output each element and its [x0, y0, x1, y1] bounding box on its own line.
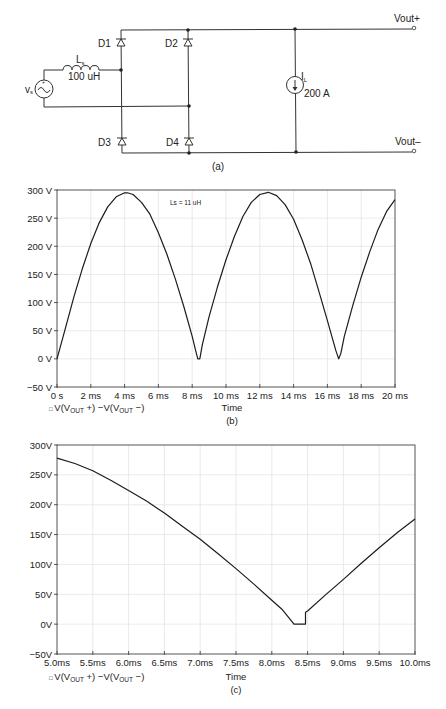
figure-canvas: + D1 D2 D3 D4 Ls 100 uH vs IL 200 A Vout…	[0, 0, 446, 709]
y-tick-label: −50V	[30, 649, 53, 660]
vout-plus-label: Vout+	[394, 13, 420, 24]
grid-lines	[57, 445, 415, 654]
diode-d4-label: D4	[166, 137, 179, 148]
x-tick-label: 7.5ms	[223, 657, 249, 668]
x-tick-label: 6.0ms	[116, 657, 142, 668]
x-tick-label: 8 ms	[182, 390, 203, 401]
caption-b: (b)	[226, 415, 238, 426]
x-tick-label: 12 ms	[247, 390, 273, 401]
y-tick-label: 0 V	[38, 353, 53, 364]
caption-c: (c)	[230, 684, 241, 695]
y-tick-label: 200V	[30, 499, 53, 510]
x-tick-label: 6 ms	[148, 390, 169, 401]
legend-entry: □ V(VOUT +) −V(VOUT −)	[49, 402, 144, 414]
svg-text:+: +	[42, 79, 45, 85]
x-tick-label: 0 s	[51, 390, 64, 401]
y-tick-label: 50V	[35, 589, 53, 600]
x-tick-label: 18 ms	[348, 390, 374, 401]
inductor-label: Ls	[76, 54, 85, 66]
diode-d3-icon	[117, 138, 127, 145]
x-tick-label: 9.0ms	[330, 657, 356, 668]
x-tick-label: 10 ms	[213, 390, 239, 401]
x-tick-label: 10.0ms	[399, 657, 430, 668]
x-axis-title: Time	[222, 402, 243, 413]
x-tick-label: 6.5ms	[151, 657, 177, 668]
x-tick-label: 5.5ms	[80, 657, 106, 668]
y-axis: 300V250V200V150V100V50V0V−50V	[30, 440, 58, 660]
chart-c: 5.0ms5.5ms6.0ms6.5ms7.0ms7.5ms8.0ms8.5ms…	[30, 440, 431, 696]
y-tick-label: 100 V	[27, 297, 52, 308]
inductor-value: 100 uH	[68, 71, 100, 82]
y-tick-label: −50 V	[27, 382, 53, 393]
x-tick-label: 20 ms	[382, 390, 408, 401]
y-tick-label: 50 V	[32, 325, 52, 336]
y-tick-label: 250V	[30, 469, 53, 480]
y-tick-label: 300 V	[27, 185, 52, 196]
vout-minus-label: Vout–	[395, 136, 421, 147]
y-tick-label: 150V	[30, 529, 53, 540]
diode-d2-icon	[183, 39, 193, 46]
vout-plus-terminal	[412, 26, 416, 30]
x-tick-label: 8.0ms	[259, 657, 285, 668]
x-tick-label: 14 ms	[281, 390, 307, 401]
vout-minus-terminal	[412, 149, 416, 153]
load-label: IL	[301, 71, 308, 83]
x-tick-label: 2 ms	[81, 390, 102, 401]
diode-d2-label: D2	[165, 38, 178, 49]
x-tick-label: 16 ms	[314, 390, 340, 401]
ac-source-icon: +	[35, 79, 53, 98]
caption-a: (a)	[212, 161, 224, 172]
x-tick-label: 7.0ms	[187, 657, 213, 668]
y-tick-label: 100V	[30, 559, 53, 570]
y-axis: 300 V250 V200 V150 V100 V50 V0 V−50 V	[27, 185, 58, 393]
y-tick-label: 250 V	[27, 213, 52, 224]
diode-d1-label: D1	[98, 38, 111, 49]
chart-b: 0 s2 ms4 ms6 ms8 ms10 ms12 ms14 ms16 ms1…	[27, 185, 408, 427]
junction-dots	[119, 27, 298, 155]
y-tick-label: 200 V	[27, 241, 52, 252]
x-tick-label: 8.5ms	[295, 657, 321, 668]
y-tick-label: 150 V	[27, 269, 52, 280]
y-tick-label: 0V	[40, 619, 52, 630]
inductor-icon	[63, 66, 99, 71]
diode-d1-icon	[116, 39, 126, 46]
grid-lines	[57, 190, 395, 387]
diode-d4-icon	[184, 138, 194, 145]
legend-entry: □ V(VOUT +) −V(VOUT −)	[49, 671, 144, 683]
x-tick-label: 4 ms	[114, 390, 135, 401]
x-axis-title: Time	[226, 671, 247, 682]
load-value: 200 A	[304, 88, 330, 99]
diode-d3-label: D3	[98, 137, 111, 148]
source-label: vs	[25, 84, 33, 95]
y-tick-label: 300V	[30, 440, 53, 451]
annotation-label: Ls = 11 uH	[170, 199, 201, 206]
x-tick-label: 9.5ms	[366, 657, 392, 668]
